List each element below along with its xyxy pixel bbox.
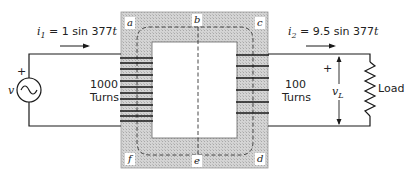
secondary-current-label: i2 = 9.5 sin 377t: [288, 25, 379, 40]
primary-polarity-plus: +: [17, 65, 26, 78]
corner-label-c: c: [257, 17, 263, 28]
source-voltage-label: v: [8, 84, 15, 97]
load-label: Load: [378, 82, 404, 95]
corner-label-e: e: [194, 155, 200, 166]
secondary-circuit: [268, 54, 370, 126]
corner-label-a: a: [127, 17, 133, 28]
ac-source-icon: [17, 78, 41, 102]
corner-label-d: d: [257, 153, 263, 164]
primary-current-arrow: [60, 44, 90, 49]
primary-current-label: i1 = 1 sin 377t: [37, 25, 118, 40]
primary-turns-count: 1000: [90, 78, 118, 91]
secondary-turns-word: Turns: [281, 91, 311, 104]
load-voltage-label: vL: [332, 85, 344, 100]
corner-label-b: b: [194, 14, 200, 25]
secondary-turns-count: 100: [285, 78, 306, 91]
load-resistor-icon: [365, 62, 375, 116]
secondary-current-arrow: [306, 44, 336, 49]
primary-turns-word: Turns: [89, 91, 119, 104]
secondary-polarity-plus: +: [323, 62, 332, 75]
transformer-diagram: a b c d e f + v i1 = 1 sin 377t 1000 Tur…: [0, 0, 408, 179]
